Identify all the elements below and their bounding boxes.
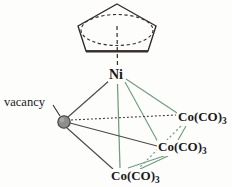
vacancy-sphere-highlight bbox=[60, 118, 65, 123]
atom-label-cobalt-right: Co(CO)3 bbox=[177, 110, 228, 126]
vacancy-leader-line bbox=[53, 105, 60, 116]
vacancy-marker bbox=[58, 116, 70, 128]
vacancy-label: vacancy bbox=[4, 96, 45, 109]
atom-label-cobalt-middle: Co(CO)3 bbox=[157, 140, 208, 156]
bond-ni-co-bottom bbox=[118, 84, 121, 168]
bond-vacancy-co-bottom bbox=[67, 128, 113, 169]
structure-drawing bbox=[0, 0, 232, 187]
atom-label-cobalt-bottom: Co(CO)3 bbox=[110, 169, 161, 185]
bond-vacancy-ni bbox=[68, 80, 110, 117]
cp-to-ni-dashed-bond bbox=[117, 26, 118, 68]
bond-co-right-co-middle bbox=[178, 126, 186, 140]
vacancy-sphere bbox=[58, 116, 70, 128]
bond-ni-co-middle bbox=[125, 82, 158, 142]
bond-ni-co-right bbox=[126, 79, 177, 113]
bond-vacancy-co-right-dotted bbox=[71, 115, 176, 120]
atom-label-nickel: Ni bbox=[108, 68, 124, 82]
chemical-structure-figure: Ni Co(CO)3 Co(CO)3 Co(CO)3 vacancy bbox=[0, 0, 232, 187]
